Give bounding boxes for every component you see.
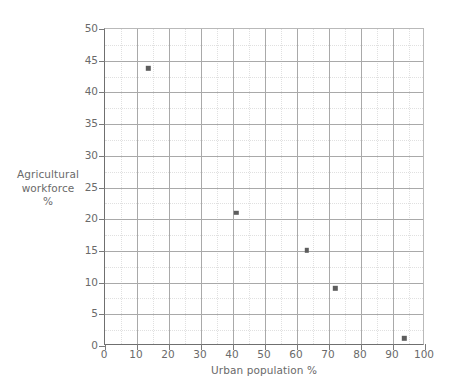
- gridline-horizontal: [105, 92, 423, 93]
- gridline-vertical: [201, 29, 202, 344]
- gridline-vertical: [137, 29, 138, 344]
- gridline-vertical: [297, 29, 298, 344]
- minor-gridline-horizontal: [105, 45, 423, 46]
- x-axis-tick-label: 50: [249, 349, 279, 360]
- gridline-vertical: [361, 29, 362, 344]
- gridline-horizontal: [105, 124, 423, 125]
- plot-inner: [105, 29, 423, 344]
- y-axis-tick-label: 35: [72, 118, 98, 129]
- gridline-horizontal: [105, 283, 423, 284]
- y-axis-tick: [99, 92, 105, 93]
- y-axis-tick-label: 15: [72, 245, 98, 256]
- gridline-horizontal: [105, 156, 423, 157]
- y-axis-tick: [99, 283, 105, 284]
- y-axis-tick: [99, 124, 105, 125]
- x-tick-label-group: 0102030405060708090100: [104, 349, 424, 365]
- gridline-vertical: [329, 29, 330, 344]
- gridline-vertical: [169, 29, 170, 344]
- gridline-horizontal: [105, 251, 423, 252]
- minor-gridline-horizontal: [105, 203, 423, 204]
- y-axis-tick-label: 10: [72, 277, 98, 288]
- x-axis-tick-label: 60: [281, 349, 311, 360]
- x-axis-title: Urban population %: [104, 364, 424, 376]
- gridline-horizontal: [105, 61, 423, 62]
- y-axis-tick-label: 40: [72, 86, 98, 97]
- y-axis-tick: [99, 29, 105, 30]
- y-axis-tick: [99, 314, 105, 315]
- data-point: [234, 211, 238, 215]
- gridline-vertical: [233, 29, 234, 344]
- minor-gridline-horizontal: [105, 298, 423, 299]
- y-axis-tick: [99, 156, 105, 157]
- data-point: [333, 286, 337, 290]
- x-axis-tick-label: 90: [377, 349, 407, 360]
- gridline-horizontal: [105, 314, 423, 315]
- data-point: [304, 248, 308, 252]
- gridline-horizontal: [105, 219, 423, 220]
- x-axis-tick-label: 80: [345, 349, 375, 360]
- y-axis-tick-label: 50: [72, 23, 98, 34]
- x-axis-tick-label: 70: [313, 349, 343, 360]
- x-axis-tick-label: 30: [185, 349, 215, 360]
- x-axis-tick-label: 10: [121, 349, 151, 360]
- plot-area: [104, 28, 424, 345]
- y-axis-tick-label: 25: [72, 182, 98, 193]
- y-axis-tick: [99, 219, 105, 220]
- y-axis-tick: [99, 346, 105, 347]
- x-axis-tick-label: 0: [89, 349, 119, 360]
- y-axis-tick-label: 5: [72, 308, 98, 319]
- minor-gridline-horizontal: [105, 267, 423, 268]
- gridline-vertical: [265, 29, 266, 344]
- minor-gridline-horizontal: [105, 140, 423, 141]
- minor-gridline-horizontal: [105, 108, 423, 109]
- gridline-horizontal: [105, 188, 423, 189]
- minor-gridline-horizontal: [105, 235, 423, 236]
- minor-gridline-horizontal: [105, 330, 423, 331]
- data-point: [402, 336, 406, 340]
- minor-gridline-horizontal: [105, 77, 423, 78]
- x-axis-tick-label: 40: [217, 349, 247, 360]
- x-axis-tick-label: 100: [409, 349, 439, 360]
- gridline-vertical: [393, 29, 394, 344]
- y-tick-label-group: 05101520253035404550: [70, 28, 98, 345]
- y-axis-tick: [99, 251, 105, 252]
- minor-gridline-horizontal: [105, 172, 423, 173]
- y-axis-tick-label: 45: [72, 55, 98, 66]
- chart-page: Agricultural workforce % Urban populatio…: [0, 0, 449, 390]
- y-axis-tick-label: 30: [72, 150, 98, 161]
- x-axis-tick-label: 20: [153, 349, 183, 360]
- y-axis-tick: [99, 188, 105, 189]
- y-axis-tick: [99, 61, 105, 62]
- data-point: [146, 66, 150, 70]
- y-axis-tick-label: 20: [72, 213, 98, 224]
